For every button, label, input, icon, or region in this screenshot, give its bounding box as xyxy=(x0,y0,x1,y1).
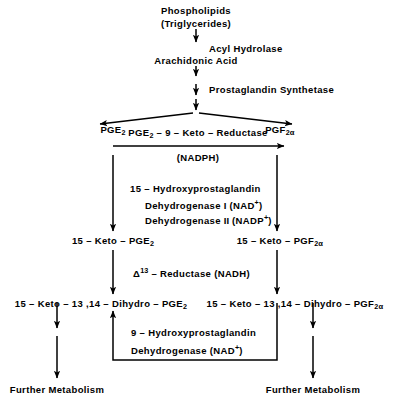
node-pge2-subscript: 2 xyxy=(122,128,126,137)
enzyme-9-hydroxyprostaglandin: 9 – Hydroxyprostaglandin xyxy=(131,328,256,338)
node-pgf2a: PGF2α xyxy=(265,125,295,137)
node-pgf2a-text: PGF xyxy=(265,124,286,135)
node-dihydro-pge2: 15 – Keto – 13 ,14 – Dihydro – PGE2 xyxy=(15,299,187,310)
node-further-metabolism-right: Further Metabolism xyxy=(266,385,360,395)
node-dihydro-pgf2a-greek: α xyxy=(378,302,383,311)
node-pgf2a-greek: α xyxy=(290,128,295,137)
pathway-diagram: Phospholipids (Triglycerides) Arachidoni… xyxy=(0,0,396,408)
node-keto-pgf2a-greek: α xyxy=(318,239,323,248)
node-triglycerides: (Triglycerides) xyxy=(161,19,231,29)
node-keto-pgf2a-text: 15 – Keto – PGF xyxy=(237,235,315,246)
enzyme-dehydrogenase-2: Dehydrogenase II (NADP+) xyxy=(145,214,272,225)
enzyme-keto-reductase-prefix: PGE xyxy=(128,127,149,138)
node-dihydro-pge2-text: 15 – Keto – 13 ,14 – Dihydro – PGE xyxy=(15,298,183,309)
enzyme-keto-reductase-suffix: – 9 – Keto – Reductase xyxy=(154,127,268,138)
node-keto-pge2-subscript: 2 xyxy=(150,239,154,248)
enzyme-delta13-suffix: – Reductase (NADH) xyxy=(148,268,250,279)
node-dihydro-pgf2a: 15 – Keto – 13 ,14 – Dihydro – PGF2α xyxy=(207,299,384,311)
node-arachidonic-acid: Arachidonic Acid xyxy=(154,56,237,66)
enzyme-acyl-hydrolase: Acyl Hydrolase xyxy=(209,44,283,54)
enzyme-dehydrogenase-9: Dehydrogenase (NAD+) xyxy=(131,344,243,355)
node-dihydro-pgf2a-text: 15 – Keto – 13 ,14 – Dihydro – PGF xyxy=(207,298,375,309)
enzyme-dehydrogenase-9-prefix: Dehydrogenase (NAD xyxy=(131,345,235,356)
node-dihydro-pge2-subscript: 2 xyxy=(183,302,187,311)
enzyme-keto-reductase: PGE2 – 9 – Keto – Reductase xyxy=(128,128,267,139)
enzyme-15-hydroxyprostaglandin: 15 – Hydroxyprostaglandin xyxy=(130,184,261,194)
node-keto-pge2-text: 15 – Keto – PGE xyxy=(72,235,150,246)
enzyme-prostaglandin-synthetase: Prostaglandin Synthetase xyxy=(209,85,334,95)
enzyme-dehydrogenase-9-close: ) xyxy=(239,345,243,356)
enzyme-dehydrogenase-2-close: ) xyxy=(268,215,272,226)
arrow-branch-to-pgf2a xyxy=(199,113,292,124)
node-pge2: PGE2 xyxy=(100,125,125,136)
arrow-branch-to-pge2 xyxy=(100,113,193,124)
enzyme-dehydrogenase-1-prefix: Dehydrogenase xyxy=(145,200,224,211)
enzyme-dehydrogenase-1: Dehydrogenase I (NAD+) xyxy=(145,199,262,210)
node-keto-pge2: 15 – Keto – PGE2 xyxy=(72,236,154,247)
enzyme-delta13-reductase: Δ13 – Reductase (NADH) xyxy=(133,267,250,278)
enzyme-dehydrogenase-1-close: ) xyxy=(259,200,263,211)
node-phospholipids: Phospholipids xyxy=(161,6,231,16)
node-pge2-text: PGE xyxy=(100,124,121,135)
enzyme-dehydrogenase-2-cofactor: (NADP xyxy=(229,215,264,226)
cofactor-nadph: (NADPH) xyxy=(177,153,220,163)
node-keto-pgf2a: 15 – Keto – PGF2α xyxy=(237,236,324,248)
node-further-metabolism-left: Further Metabolism xyxy=(10,385,104,395)
enzyme-dehydrogenase-2-prefix: Dehydrogenase xyxy=(145,215,224,226)
enzyme-dehydrogenase-1-cofactor: (NAD xyxy=(226,200,254,211)
